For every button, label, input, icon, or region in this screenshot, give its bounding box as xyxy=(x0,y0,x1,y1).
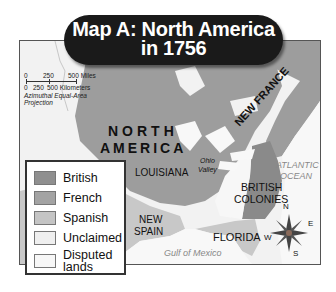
title-line-2: in 1756 xyxy=(64,39,283,58)
scale-km-500: 500 Kilometers xyxy=(47,84,90,91)
legend-label: Disputed lands xyxy=(63,249,112,273)
swatch-unclaimed xyxy=(34,231,56,245)
scale-line xyxy=(26,81,76,82)
compass-e: E xyxy=(308,219,313,228)
legend-item-unclaimed: Unclaimed xyxy=(34,228,124,248)
legend-item-disputed: Disputed lands xyxy=(34,248,124,274)
label-valley: Valley xyxy=(198,166,217,173)
label-spain: SPAIN xyxy=(134,226,163,237)
swatch-british xyxy=(34,171,56,185)
swatch-french xyxy=(34,191,56,205)
compass-rose-icon xyxy=(268,212,310,254)
scale-miles-500: 500 Miles xyxy=(68,72,96,79)
map-title: Map A: North America in 1756 xyxy=(64,15,283,65)
label-florida: FLORIDA xyxy=(213,231,261,243)
legend-label: Unclaimed xyxy=(63,232,122,244)
compass-w: W xyxy=(264,233,272,242)
label-ohio: Ohio xyxy=(200,157,215,164)
legend: British French Spanish Unclaimed Dispute… xyxy=(25,160,126,275)
scale-km-250: 250 xyxy=(33,84,44,91)
swatch-spanish xyxy=(34,211,56,225)
label-north: NORTH xyxy=(108,123,178,139)
projection-label: Azimuthal Equal-Area Projection xyxy=(24,92,112,106)
legend-label-line2: lands xyxy=(63,260,93,274)
legend-item-french: French xyxy=(34,188,124,208)
label-atlantic: ATLANTIC xyxy=(276,160,319,170)
scale-miles-0: 0 xyxy=(24,72,28,79)
legend-label: French xyxy=(63,192,102,204)
legend-item-british: British xyxy=(34,168,124,188)
legend-label: Spanish xyxy=(63,212,108,224)
compass-s: S xyxy=(293,249,298,258)
label-new: NEW xyxy=(139,214,162,225)
label-colonies: COLONIES xyxy=(234,193,288,205)
scale-bar: 0 250 500 Miles 0 250 500 Kilometers Azi… xyxy=(22,72,112,102)
legend-label: British xyxy=(63,172,98,184)
label-ocean: OCEAN xyxy=(280,171,312,181)
label-louisiana: LOUISIANA xyxy=(135,167,188,178)
scale-miles-250: 250 xyxy=(43,72,54,79)
label-america: AMERICA xyxy=(100,140,186,156)
scale-km-0: 0 xyxy=(24,84,28,91)
legend-item-spanish: Spanish xyxy=(34,208,124,228)
label-british: BRITISH xyxy=(241,181,282,193)
compass-n: N xyxy=(283,202,289,211)
swatch-disputed xyxy=(34,254,56,268)
label-gulf-of-mexico: Gulf of Mexico xyxy=(164,248,222,258)
